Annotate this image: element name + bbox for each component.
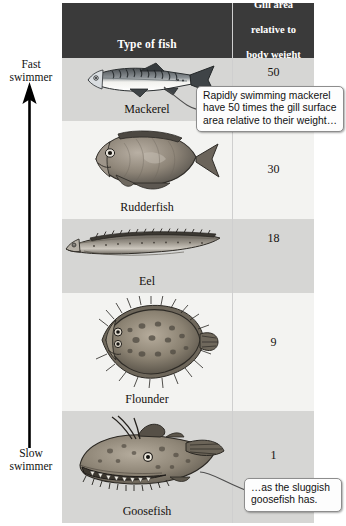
gill-area-value: 30 — [268, 162, 280, 177]
table-row: Flounder 9 — [62, 293, 314, 411]
column-header-gill-area: Gill arearelative tobody weight — [233, 3, 314, 58]
mackerel-callout-line2: have 50 times the gill surface — [203, 102, 338, 114]
goosefish-callout: …as the sluggish goosefish has. — [244, 478, 342, 512]
gill-area-value: 9 — [271, 335, 277, 350]
fish-name: Eel — [139, 273, 155, 289]
mackerel-callout-line3: area relative to their weight… — [203, 115, 338, 127]
gill-area-value: 1 — [271, 448, 277, 463]
slow-swimmer-label-line1: Slow — [19, 447, 43, 459]
table-row: Eel 18 — [62, 219, 314, 293]
column-header-gill-area-label: Gill arearelative tobody weight — [246, 0, 301, 62]
fish-name: Flounder — [125, 391, 168, 407]
gill-area-line2: relative to — [246, 24, 301, 37]
speed-axis: Fast swimmer Slow swimmer — [0, 0, 62, 526]
table-row: Rudderfish 30 — [62, 121, 314, 219]
fish-cell: Eel — [62, 219, 232, 293]
fish-comparison-table: Type of fish Gill arearelative tobody we… — [62, 3, 314, 523]
table-header-row: Type of fish Gill arearelative tobody we… — [62, 3, 314, 58]
gill-area-line1: Gill area — [246, 0, 301, 12]
column-header-type-of-fish-label: Type of fish — [117, 38, 177, 50]
gill-area-value-cell: 18 — [233, 219, 314, 293]
fish-cell: Flounder — [62, 293, 232, 411]
gill-area-value: 50 — [268, 65, 280, 80]
slow-swimmer-label-line2: swimmer — [10, 460, 53, 472]
gill-area-value: 18 — [268, 231, 280, 246]
goosefish-illustration — [62, 411, 232, 503]
fish-name: Rudderfish — [120, 199, 173, 215]
fish-cell: Rudderfish — [62, 121, 232, 219]
fish-name: Mackerel — [124, 101, 169, 117]
goosefish-callout-line1: …as the sluggish — [251, 482, 336, 494]
eel-illustration — [62, 219, 232, 273]
gill-area-value-cell: 9 — [233, 293, 314, 411]
column-header-type-of-fish: Type of fish — [62, 3, 232, 58]
slow-swimmer-label: Slow swimmer — [0, 447, 62, 473]
fish-cell: Goosefish — [62, 411, 232, 523]
mackerel-callout: Rapidly swimming mackerel have 50 times … — [196, 86, 344, 132]
fish-name: Goosefish — [123, 503, 172, 519]
gill-area-value-cell: 30 — [233, 121, 314, 219]
rudderfish-illustration — [62, 121, 232, 199]
flounder-illustration — [62, 293, 232, 391]
mackerel-callout-line1: Rapidly swimming mackerel — [203, 90, 338, 102]
goosefish-callout-line2: goosefish has. — [251, 494, 336, 506]
